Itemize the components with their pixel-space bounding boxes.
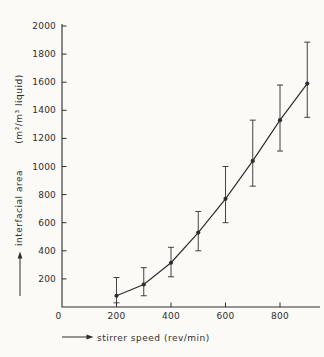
error-bar xyxy=(304,42,310,117)
y-tick-label: 800 xyxy=(38,190,56,200)
y-axis-arrow-icon xyxy=(18,252,23,297)
data-point xyxy=(196,230,200,234)
y-tick-label: 1200 xyxy=(32,133,56,143)
figure: 200400600800100012001400160018002000 200… xyxy=(0,0,324,357)
axes-group xyxy=(62,24,320,307)
data-point xyxy=(251,159,255,163)
x-tick-label: 600 xyxy=(217,311,235,321)
y-tick-label: 1000 xyxy=(32,162,56,172)
y-tick-label: 1400 xyxy=(32,105,56,115)
y-tick-label: 1600 xyxy=(32,77,56,87)
y-tick-label: 200 xyxy=(38,274,56,284)
y-tick-label: 400 xyxy=(38,246,56,256)
axis-lines xyxy=(62,24,320,307)
y-tick-label: 2000 xyxy=(32,21,56,31)
x-tick-label: 200 xyxy=(108,311,126,321)
x-tick-label: 800 xyxy=(271,311,289,321)
data-point xyxy=(114,294,118,298)
x-axis-title: stirrer speed (rev/min) xyxy=(97,333,210,343)
x-axis-ticks: 200400600800 xyxy=(108,303,289,322)
error-bar xyxy=(250,120,256,186)
error-bar xyxy=(223,167,229,223)
x-tick-label: 400 xyxy=(162,311,180,321)
series-line xyxy=(117,84,308,296)
y-axis-units-label: (m²/m³ liquid) xyxy=(14,74,24,143)
data-point xyxy=(278,118,282,122)
error-bar xyxy=(114,277,120,302)
y-tick-label: 600 xyxy=(38,218,56,228)
data-point xyxy=(169,261,173,265)
data-point xyxy=(142,282,146,286)
data-point xyxy=(305,82,309,86)
x-origin-label: 0 xyxy=(56,311,62,321)
series-line-group xyxy=(117,84,308,296)
data-point xyxy=(223,197,227,201)
y-tick-label: 1800 xyxy=(32,49,56,59)
y-axis-title: interfacial area xyxy=(14,170,24,246)
error-bar xyxy=(141,268,147,296)
chart: 200400600800100012001400160018002000 200… xyxy=(0,0,324,357)
x-axis-arrow-icon xyxy=(62,335,94,340)
y-axis-ticks: 200400600800100012001400160018002000 xyxy=(32,21,66,284)
error-bars-group xyxy=(114,42,311,303)
